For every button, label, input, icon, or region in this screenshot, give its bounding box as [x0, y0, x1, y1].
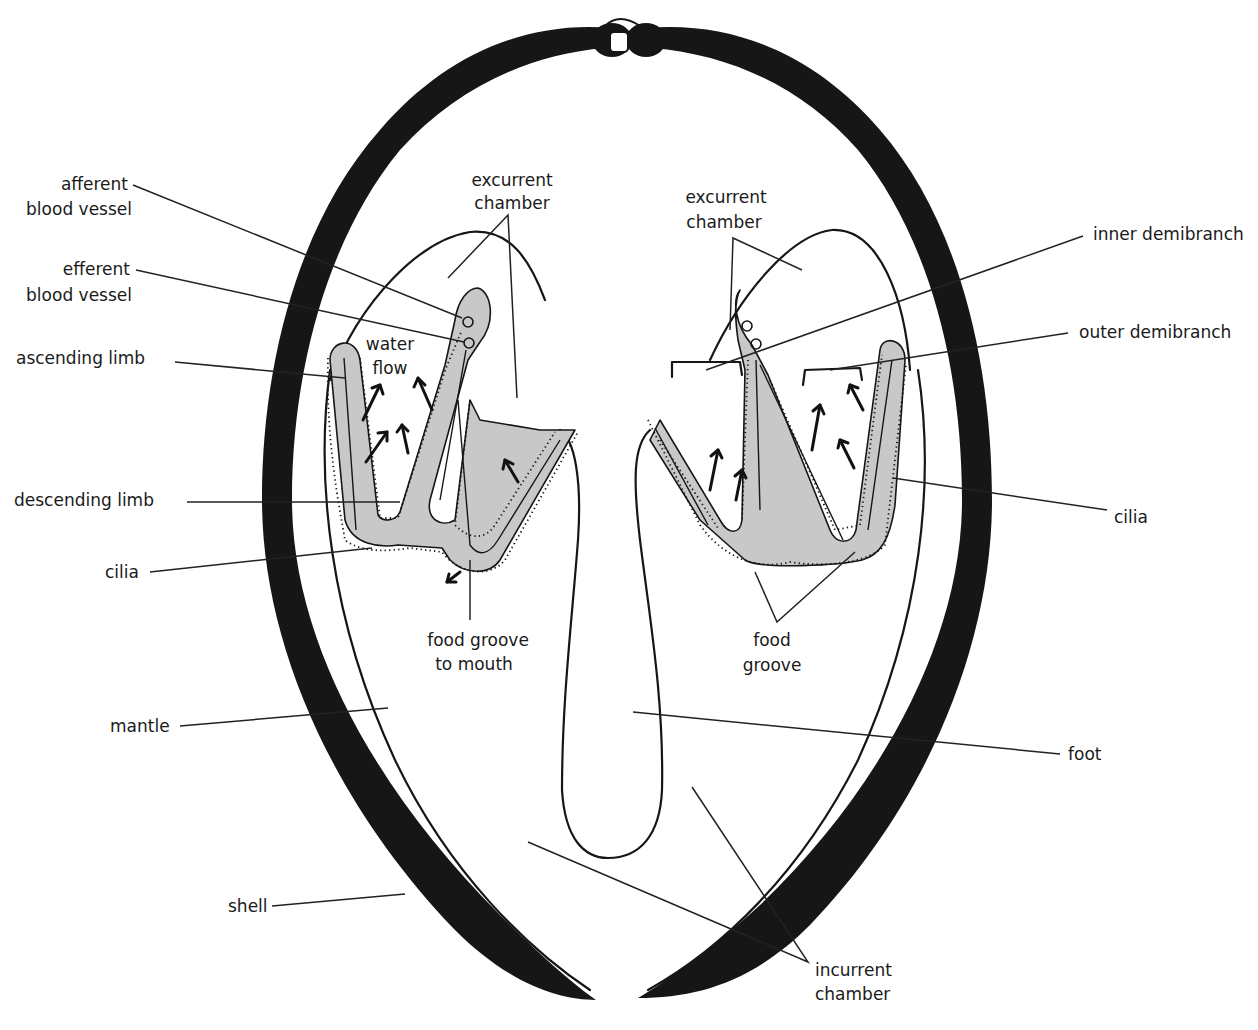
label-incurrent-line2: chamber — [815, 984, 890, 1004]
leader-ascending-limb — [175, 362, 345, 378]
label-cilia-left: cilia — [105, 562, 139, 582]
label-mantle: mantle — [110, 716, 170, 736]
label-cilia-right: cilia — [1114, 507, 1148, 527]
arrow-icon — [848, 385, 863, 410]
label-food-groove-line2: groove — [743, 655, 802, 675]
label-incurrent-line1: incurrent — [815, 960, 892, 980]
label-outer-demibranch: outer demibranch — [1079, 322, 1231, 342]
right-afferent-vessel-circle — [742, 321, 752, 331]
arrow-icon — [363, 385, 383, 420]
arrow-icon — [397, 425, 408, 453]
label-excurrent-left-line1: excurrent — [471, 170, 553, 190]
label-ascending-limb: ascending limb — [16, 348, 145, 368]
foot-outline — [560, 430, 662, 858]
arrow-icon — [838, 440, 854, 468]
arrow-icon — [414, 378, 432, 410]
leader-mantle — [180, 708, 388, 726]
label-afferent-line1: afferent — [61, 174, 128, 194]
leader-shell — [272, 894, 405, 906]
left-shell-valve — [262, 27, 612, 1000]
bivalve-gill-diagram: afferent blood vessel efferent blood ves… — [0, 0, 1258, 1030]
label-water-flow-line2: flow — [372, 358, 407, 378]
label-water-flow-line1: water — [366, 334, 414, 354]
label-excurrent-left-line2: chamber — [474, 193, 549, 213]
label-excurrent-right-line2: chamber — [686, 212, 761, 232]
outer-demibranch-bracket — [803, 368, 862, 385]
label-food-groove-mouth-line1: food groove — [427, 630, 529, 650]
label-efferent-line1: efferent — [63, 259, 130, 279]
arrow-icon — [812, 405, 824, 450]
arrow-icon — [447, 572, 460, 582]
label-food-groove-line1: food — [753, 630, 791, 650]
right-hinge-tooth — [626, 23, 666, 57]
label-excurrent-right-line1: excurrent — [685, 187, 767, 207]
right-gill — [648, 290, 906, 566]
label-inner-demibranch: inner demibranch — [1093, 224, 1244, 244]
left-gill — [328, 288, 578, 572]
right-gill-body — [650, 290, 905, 566]
label-food-groove-mouth-line2: to mouth — [435, 654, 513, 674]
label-afferent-line2: blood vessel — [26, 199, 132, 219]
leader-excurrent-right — [730, 238, 802, 330]
label-shell: shell — [228, 896, 268, 916]
leader-foot — [633, 712, 1060, 754]
label-foot: foot — [1068, 744, 1102, 764]
label-efferent-line2: blood vessel — [26, 285, 132, 305]
hinge-ligament — [610, 32, 628, 52]
right-efferent-vessel-circle — [751, 339, 761, 349]
label-descending-limb: descending limb — [14, 490, 154, 510]
labels: afferent blood vessel efferent blood ves… — [14, 170, 1244, 1004]
leader-cilia-left — [150, 548, 372, 572]
arrow-icon — [710, 450, 722, 490]
